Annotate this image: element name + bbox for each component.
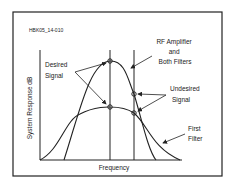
figure-id-label: HBK05_14-010	[29, 27, 63, 33]
first-filter-arrow	[163, 134, 185, 143]
undesired-arrow-2	[138, 95, 166, 111]
x-axis-label: Frequency	[99, 164, 130, 172]
selectivity-diagram: HBK05_14-010 System Response dB Frequenc…	[0, 0, 233, 186]
undesired-arrow-1	[138, 94, 166, 95]
desired-arrow-1	[75, 63, 106, 72]
desired-arrow-2	[75, 72, 106, 104]
rf-amplifier-label: RF Amplifier and Both Filters	[156, 38, 193, 65]
undesired-signal-label: Undesired Signal	[170, 85, 201, 104]
frame-border	[13, 12, 222, 176]
first-filter-label: First Filter	[188, 125, 203, 142]
y-axis-label: System Response dB	[26, 77, 34, 140]
desired-signal-label: Desired Signal	[45, 61, 69, 80]
